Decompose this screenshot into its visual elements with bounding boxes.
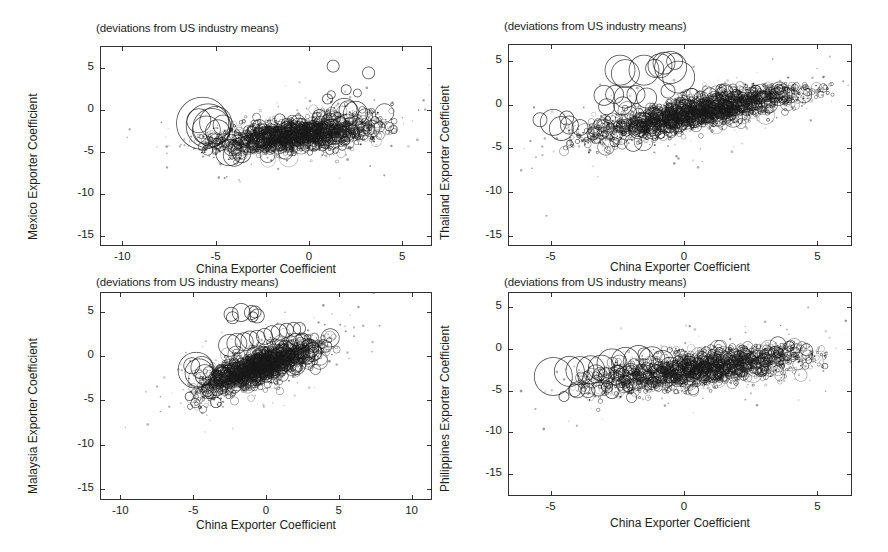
panel-thailand-plot-area <box>508 44 852 246</box>
panel-malaysia-plot-area <box>100 292 432 500</box>
panel-mexico-xaxis-label: China Exporter Coefficient <box>166 262 366 276</box>
panel-philippines-xtick-0: -5 <box>521 500 581 512</box>
panel-thailand-ytick-2: -5 <box>466 140 502 152</box>
panel-philippines-xaxis-label: China Exporter Coefficient <box>580 516 780 530</box>
panel-philippines-ytick-2: -5 <box>466 383 502 395</box>
panel-thailand-ytick-0: 5 <box>466 53 502 65</box>
panel-thailand-xtick-2: 5 <box>787 250 847 262</box>
panel-thailand-ytick-1: 0 <box>466 97 502 109</box>
panel-mexico-yaxis-label: Mexico Exporter Coefficient <box>26 93 40 240</box>
panel-thailand-title: (deviations from US industry means) <box>504 20 686 32</box>
panel-malaysia-xtick-1: -5 <box>163 504 223 516</box>
panel-malaysia: (deviations from US industry means)China… <box>100 292 432 500</box>
panel-philippines-ytick-3: -10 <box>466 424 502 436</box>
panel-mexico-xtick-0: -10 <box>92 250 152 262</box>
panel-philippines: (deviations from US industry means)China… <box>508 292 852 496</box>
panel-philippines-xtick-1: 0 <box>654 500 714 512</box>
figure-root: (deviations from US industry means)China… <box>0 0 888 552</box>
panel-malaysia-ytick-2: -5 <box>58 392 94 404</box>
panel-mexico-ytick-0: 5 <box>58 60 94 72</box>
panel-malaysia-ytick-3: -10 <box>58 437 94 449</box>
panel-philippines-ytick-0: 5 <box>466 299 502 311</box>
panel-thailand-yaxis-label: Thailand Exporter Coefficient <box>438 85 452 240</box>
panel-philippines-xtick-2: 5 <box>787 500 847 512</box>
panel-philippines-plot-area <box>508 292 852 496</box>
panel-mexico-title: (deviations from US industry means) <box>96 22 278 34</box>
panel-thailand-ytick-4: -15 <box>466 228 502 240</box>
panel-malaysia-ytick-1: 0 <box>58 348 94 360</box>
panel-malaysia-xtick-0: -10 <box>90 504 150 516</box>
panel-philippines-yaxis-label: Philippines Exporter Coefficient <box>438 325 452 492</box>
panel-mexico-xtick-2: 0 <box>279 250 339 262</box>
panel-malaysia-title: (deviations from US industry means) <box>96 276 278 288</box>
panel-thailand-xtick-0: -5 <box>521 250 581 262</box>
panel-thailand-ytick-3: -10 <box>466 184 502 196</box>
panel-mexico-ytick-3: -10 <box>58 186 94 198</box>
panel-mexico-ytick-4: -15 <box>58 228 94 240</box>
panel-malaysia-ytick-0: 5 <box>58 304 94 316</box>
panel-thailand-xaxis-label: China Exporter Coefficient <box>580 260 780 274</box>
panel-mexico-ytick-1: 0 <box>58 102 94 114</box>
panel-philippines-ytick-1: 0 <box>466 341 502 353</box>
panel-mexico-plot-area <box>100 46 432 246</box>
panel-thailand: (deviations from US industry means)China… <box>508 44 852 246</box>
panel-mexico-ytick-2: -5 <box>58 144 94 156</box>
panel-mexico-xtick-3: 5 <box>372 250 432 262</box>
panel-philippines-ytick-4: -15 <box>466 466 502 478</box>
panel-thailand-xtick-1: 0 <box>654 250 714 262</box>
panel-malaysia-xaxis-label: China Exporter Coefficient <box>166 518 366 532</box>
panel-mexico: (deviations from US industry means)China… <box>100 46 432 246</box>
panel-malaysia-xtick-4: 10 <box>382 504 442 516</box>
panel-malaysia-xtick-3: 5 <box>309 504 369 516</box>
panel-malaysia-yaxis-label: Malaysia Exporter Coefficient <box>26 338 40 494</box>
panel-malaysia-ytick-4: -15 <box>58 481 94 493</box>
panel-mexico-xtick-1: -5 <box>186 250 246 262</box>
panel-philippines-title: (deviations from US industry means) <box>504 276 686 288</box>
panel-malaysia-xtick-2: 0 <box>236 504 296 516</box>
